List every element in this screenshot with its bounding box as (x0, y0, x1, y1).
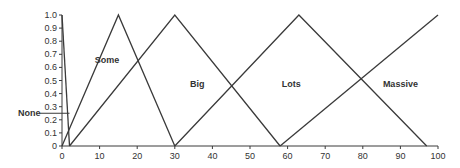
x-axis-ticks: 0102030405060708090100 (59, 146, 445, 161)
y-tick-label: 0.4 (44, 89, 57, 99)
x-tick-label: 60 (283, 151, 293, 161)
label-lots: Lots (282, 79, 301, 89)
x-tick-label: 90 (395, 151, 405, 161)
x-tick-label: 70 (320, 151, 330, 161)
y-tick-label: 0.6 (44, 62, 57, 72)
x-tick-label: 30 (170, 151, 180, 161)
series-some (62, 15, 175, 146)
y-tick-label: 1.0 (44, 10, 57, 20)
x-tick-label: 0 (59, 151, 64, 161)
y-tick-label: 0 (52, 141, 57, 151)
x-tick-label: 10 (95, 151, 105, 161)
y-tick-label: 0.3 (44, 102, 57, 112)
x-tick-label: 100 (430, 151, 445, 161)
y-tick-label: 0.8 (44, 36, 57, 46)
label-massive: Massive (383, 79, 418, 89)
y-tick-label: 0.9 (44, 23, 57, 33)
y-tick-label: 0.2 (44, 115, 57, 125)
y-tick-label: 0.1 (44, 128, 57, 138)
label-some: Some (95, 55, 120, 65)
membership-functions (62, 15, 438, 146)
x-tick-label: 20 (132, 151, 142, 161)
x-tick-label: 50 (245, 151, 255, 161)
fuzzy-membership-chart: 00.10.20.30.40.50.60.70.80.91.0 01020304… (0, 0, 460, 168)
x-tick-label: 40 (207, 151, 217, 161)
y-axis-ticks: 00.10.20.30.40.50.60.70.80.91.0 (44, 10, 62, 151)
y-tick-label: 0.5 (44, 76, 57, 86)
x-tick-label: 80 (358, 151, 368, 161)
label-big: Big (190, 79, 205, 89)
series-none (62, 15, 70, 146)
series-big (70, 15, 281, 146)
label-none: None (18, 108, 41, 118)
y-tick-label: 0.7 (44, 49, 57, 59)
